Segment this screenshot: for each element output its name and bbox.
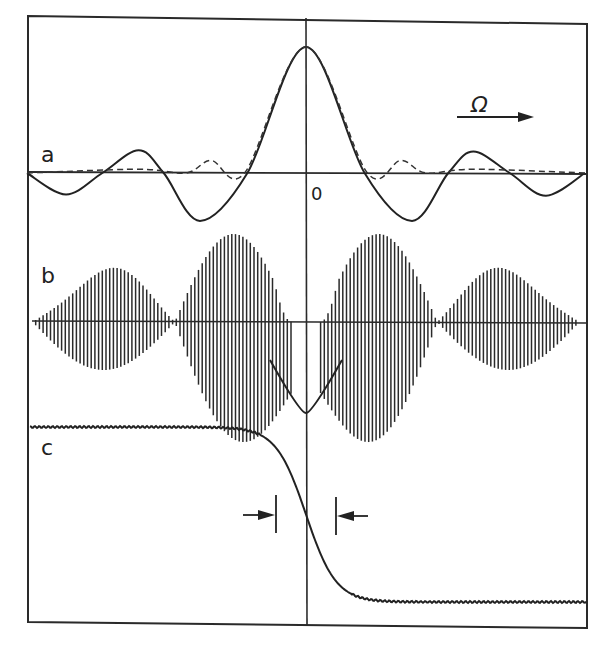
panel-c-label: c (41, 435, 53, 460)
arrow-left-icon (337, 511, 354, 521)
panel-b-baseline (32, 321, 587, 323)
panel-c: c (30, 426, 586, 603)
origin-label: 0 (311, 183, 322, 204)
panel-a-label: a (41, 142, 54, 167)
omega-arrow-icon (518, 112, 534, 122)
panel-b-label: b (41, 263, 55, 288)
omega-label: Ω (470, 92, 488, 117)
panel-b-oscillation (32, 234, 583, 442)
panel-a-baseline (28, 172, 587, 174)
figure: a 0 Ω b c (0, 0, 611, 652)
panel-b: b (32, 234, 587, 442)
arrow-right-icon (258, 510, 275, 520)
panel-c-step-curve (30, 426, 586, 603)
